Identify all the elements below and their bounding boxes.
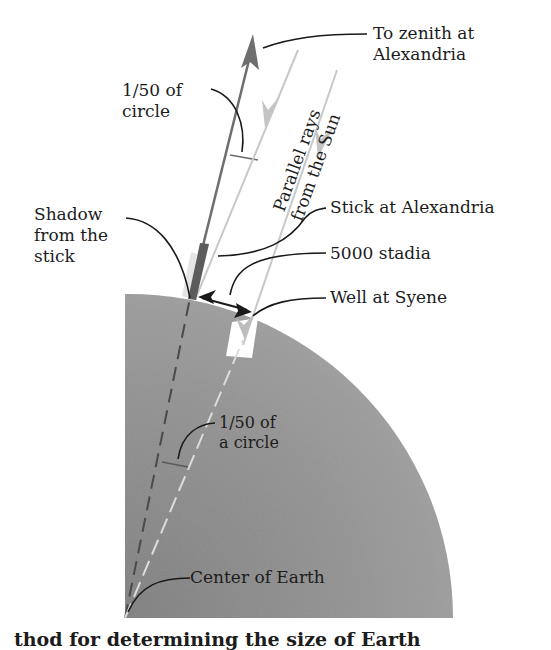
label-distance: 5000 stadia <box>330 243 431 264</box>
label-well: Well at Syene <box>330 287 447 308</box>
label-shadow-line1: Shadow <box>34 204 108 225</box>
label-shadow: Shadow from the stick <box>34 204 108 267</box>
label-angle-center-line2: a circle <box>219 433 279 453</box>
figure-caption-clipped: thod for determining the size of Earth <box>14 628 421 650</box>
leader-angle-top <box>211 89 243 152</box>
leader-stick <box>218 208 326 256</box>
label-shadow-line2: from the <box>34 225 108 246</box>
label-angle-top-line2: circle <box>122 101 182 122</box>
label-angle-top-line1: 1/50 of <box>122 80 182 101</box>
leader-shadow <box>126 218 190 298</box>
label-angle-top: 1/50 of circle <box>122 80 182 122</box>
label-shadow-line3: stick <box>34 246 108 267</box>
label-center: Center of Earth <box>190 567 325 588</box>
label-zenith: To zenith at Alexandria <box>373 23 474 65</box>
label-angle-center: 1/50 of a circle <box>219 413 279 453</box>
leader-zenith <box>263 34 367 48</box>
label-zenith-line2: Alexandria <box>373 44 474 65</box>
label-stick: Stick at Alexandria <box>330 197 495 218</box>
leader-well <box>253 298 326 316</box>
leader-distance <box>230 253 326 295</box>
label-zenith-line1: To zenith at <box>373 23 474 44</box>
label-angle-center-line1: 1/50 of <box>219 413 279 433</box>
